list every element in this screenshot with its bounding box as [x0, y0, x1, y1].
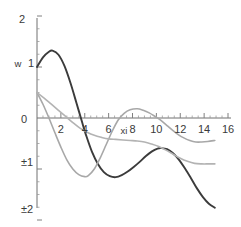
ytick-label-0: 0	[21, 113, 27, 125]
ytick-label-minus-1: ±1	[21, 156, 33, 168]
xtick-label-16: 16	[222, 123, 234, 135]
xtick-label-8: 8	[129, 123, 135, 135]
ytick-label-1: 1	[28, 57, 34, 69]
xtick-label-6: 6	[106, 123, 112, 135]
ytick-label-minus-2: ±2	[21, 203, 33, 215]
chart-container: 2 1 0 ±1 ±2 w xi 246810121416	[0, 0, 241, 227]
ytick-label-2: 2	[19, 13, 25, 25]
axis-group	[37, 18, 231, 208]
xtick-label-2: 2	[58, 123, 64, 135]
xtick-label-4: 4	[82, 123, 88, 135]
x-axis-tick-labels: 246810121416	[58, 123, 234, 135]
xtick-label-12: 12	[174, 123, 186, 135]
axis-tick-labels: 2 1 0 ±1 ±2 w xi	[14, 13, 128, 215]
xtick-label-14: 14	[198, 123, 210, 135]
chart-plot-area: 2 1 0 ±1 ±2 w xi 246810121416	[0, 0, 241, 227]
xtick-label-10: 10	[150, 123, 162, 135]
y-axis-label: w	[14, 58, 22, 69]
x-axis-label: xi	[121, 125, 128, 136]
